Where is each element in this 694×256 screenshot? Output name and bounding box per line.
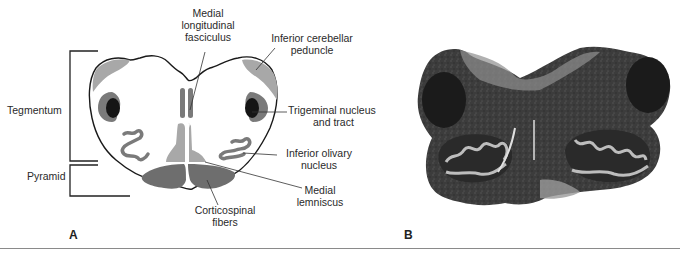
label-line: Medial bbox=[170, 7, 246, 19]
label-line: peduncle bbox=[262, 44, 362, 56]
panel-letter-b: B bbox=[404, 228, 413, 242]
label-inferior-cerebellar-peduncle: Inferior cerebellar peduncle bbox=[262, 32, 362, 56]
label-medial-lemniscus: Medial lemniscus bbox=[290, 184, 350, 208]
label-line: Inferior cerebellar bbox=[262, 32, 362, 44]
label-line: nucleus bbox=[276, 159, 362, 171]
label-line: Inferior olivary bbox=[276, 147, 362, 159]
label-medial-longitudinal-fasciculus: Medial longitudinal fasciculus bbox=[170, 7, 246, 43]
histology-photo bbox=[418, 47, 671, 205]
label-line: and tract bbox=[288, 116, 376, 128]
label-line: lemniscus bbox=[290, 196, 350, 208]
mlf-left bbox=[180, 88, 185, 118]
label-line: fibers bbox=[180, 216, 270, 228]
mlf-right bbox=[188, 88, 193, 118]
label-trigeminal-nucleus-tract: Trigeminal nucleus and tract bbox=[288, 104, 376, 128]
label-line: Corticospinal bbox=[180, 204, 270, 216]
label-line: Trigeminal nucleus bbox=[288, 104, 376, 116]
label-tegmentum: Tegmentum bbox=[7, 104, 62, 116]
label-corticospinal-fibers: Corticospinal fibers bbox=[180, 204, 270, 228]
label-pyramid: Pyramid bbox=[27, 170, 66, 182]
pyramid-bracket bbox=[70, 165, 130, 196]
label-line: Medial bbox=[290, 184, 350, 196]
label-line: longitudinal bbox=[170, 19, 246, 31]
panel-letter-a: A bbox=[69, 228, 78, 242]
bottom-rule bbox=[0, 248, 680, 249]
label-line: fasciculus bbox=[170, 31, 246, 43]
label-inferior-olivary-nucleus: Inferior olivary nucleus bbox=[276, 147, 362, 171]
